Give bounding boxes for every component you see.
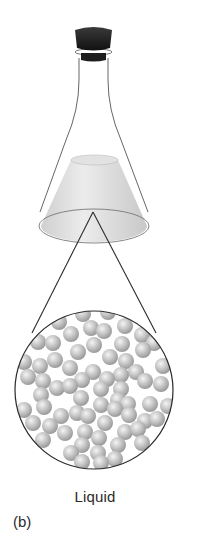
erlenmeyer-flask-icon: [39, 27, 149, 243]
liquid-fill: [41, 160, 147, 242]
panel-label: (b): [13, 513, 31, 530]
liquid-state-diagram: [0, 0, 206, 542]
state-label: Liquid: [0, 488, 190, 505]
magnified-view-circle: [15, 304, 176, 471]
stopper-icon: [75, 27, 112, 62]
